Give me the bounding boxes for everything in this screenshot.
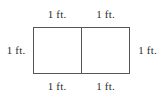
dimension-label-left: 1 ft.	[1, 44, 31, 56]
dimension-label-bottom-left: 1 ft.	[33, 80, 81, 92]
geometry-figure: 1 ft. 1 ft. 1 ft. 1 ft. 1 ft. 1 ft.	[0, 0, 164, 102]
dimension-label-top-left: 1 ft.	[33, 8, 81, 20]
dimension-label-bottom-right: 1 ft.	[81, 80, 130, 92]
rectangle-vertical-divider	[81, 27, 82, 74]
dimension-label-top-right: 1 ft.	[81, 8, 130, 20]
dimension-label-right: 1 ft.	[132, 44, 163, 56]
